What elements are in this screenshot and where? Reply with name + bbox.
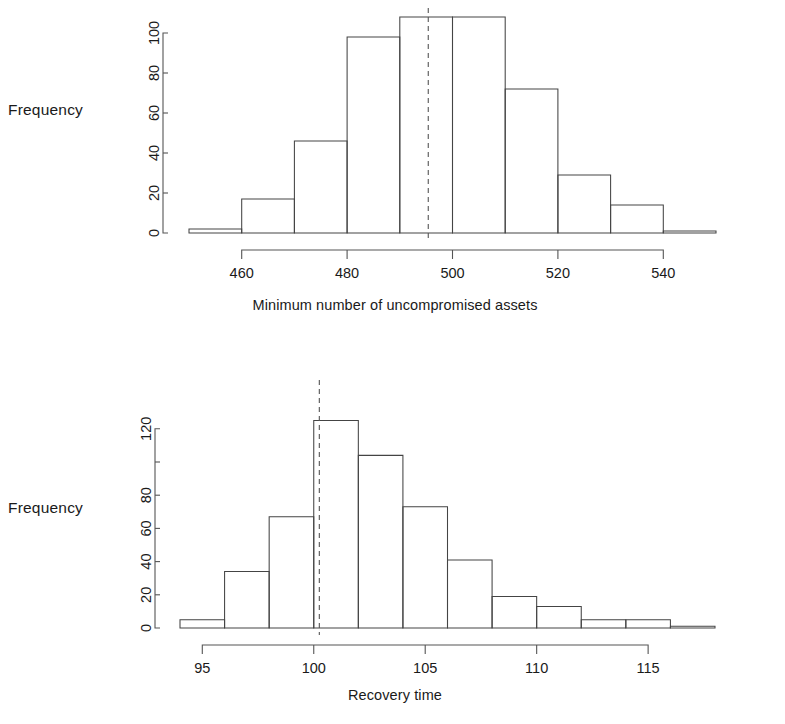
x-tick-label: 520 (546, 265, 570, 281)
histogram-bar (453, 17, 506, 233)
x-tick-label: 540 (651, 265, 675, 281)
histogram-bar (581, 620, 626, 628)
histogram-bar (358, 455, 403, 628)
x-tick-label: 500 (440, 265, 464, 281)
histogram-bar (314, 421, 359, 629)
x-tick-label: 95 (194, 660, 210, 676)
histogram-bars (180, 421, 715, 629)
histogram-bar (505, 89, 558, 233)
histogram-bar (347, 37, 400, 233)
histogram-bar (400, 17, 453, 233)
histogram-bar (242, 199, 295, 233)
x-axis-label-recovery: Recovery time (270, 687, 520, 703)
histogram-panel-assets: Frequency 020406080100460480500520540 Mi… (0, 0, 785, 360)
y-tick-label: 0 (146, 229, 162, 237)
y-tick-label: 0 (138, 624, 154, 632)
histogram-bar (189, 229, 242, 233)
y-tick-label: 40 (146, 145, 162, 161)
y-tick-label: 20 (146, 185, 162, 201)
histogram-bar (448, 560, 493, 628)
histogram-bar (663, 231, 716, 233)
histogram-bar (492, 596, 537, 628)
histogram-bar (294, 141, 347, 233)
histogram-bar (537, 606, 582, 628)
histogram-panel-recovery: Frequency 02040608012095100105110115 Rec… (0, 360, 785, 724)
recovery-histogram-plot: 02040608012095100105110115 (0, 360, 785, 724)
x-tick-label: 105 (413, 660, 437, 676)
y-tick-label: 80 (138, 487, 154, 503)
histogram-bar (269, 517, 314, 628)
histogram-bar (626, 620, 671, 628)
y-tick-label: 60 (146, 105, 162, 121)
x-tick-label: 110 (525, 660, 548, 676)
x-tick-label: 480 (335, 265, 359, 281)
x-axis: 95100105110115 (194, 645, 659, 676)
histogram-bar (558, 175, 611, 233)
histogram-bar (611, 205, 664, 233)
y-tick-label: 120 (138, 417, 154, 441)
x-axis: 460480500520540 (230, 250, 676, 281)
histogram-bar (403, 507, 448, 628)
y-tick-label: 80 (146, 65, 162, 81)
histogram-bar (180, 620, 225, 628)
histogram-bars (189, 17, 716, 233)
x-tick-label: 460 (230, 265, 254, 281)
histogram-bar (225, 572, 270, 628)
x-axis-label-assets: Minimum number of uncompromised assets (185, 297, 605, 313)
y-tick-label: 20 (138, 587, 154, 603)
y-tick-label: 100 (146, 21, 162, 45)
x-tick-label: 100 (302, 660, 326, 676)
x-tick-label: 115 (637, 660, 660, 676)
y-tick-label: 60 (138, 520, 154, 536)
histogram-bar (670, 626, 715, 628)
y-tick-label: 40 (138, 554, 154, 570)
